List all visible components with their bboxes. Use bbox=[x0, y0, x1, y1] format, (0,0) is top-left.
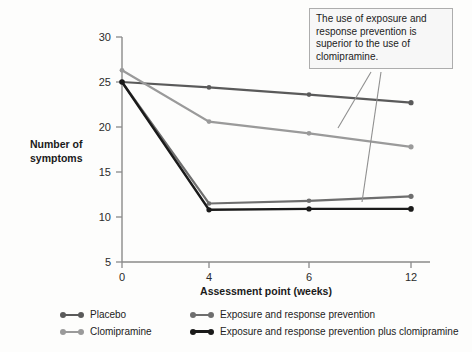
x-axis-title: Assessment point (weeks) bbox=[200, 285, 332, 297]
legend-item-clomipramine[interactable]: Clomipramine bbox=[60, 326, 190, 337]
y-axis-title-line2: symptoms bbox=[30, 152, 83, 164]
legend-row-2: Clomipramine Exposure and response preve… bbox=[60, 326, 458, 337]
legend-item-erp-plus-clomipramine[interactable]: Exposure and response prevention plus cl… bbox=[190, 326, 458, 337]
chart-figure: 30 25 20 15 10 5 0 4 6 12 Assessment poi… bbox=[0, 0, 472, 352]
series-clomipramine bbox=[120, 68, 414, 149]
legend-row-1: Placebo Exposure and response prevention bbox=[60, 309, 375, 320]
x-axis-ticks bbox=[122, 262, 411, 268]
legend-label-clomipramine: Clomipramine bbox=[90, 326, 152, 337]
legend-label-erp-plus-clomipramine: Exposure and response prevention plus cl… bbox=[220, 326, 458, 337]
legend-item-placebo[interactable]: Placebo bbox=[60, 309, 190, 320]
legend-swatch-exposure-response-prevention bbox=[190, 310, 214, 319]
y-tick-label-30: 30 bbox=[99, 31, 111, 43]
legend-item-exposure-response-prevention[interactable]: Exposure and response prevention bbox=[190, 309, 375, 320]
y-tick-label-10: 10 bbox=[99, 211, 111, 223]
legend-swatch-placebo bbox=[60, 310, 84, 319]
y-tick-label-25: 25 bbox=[99, 76, 111, 88]
callout-line-2: response prevention is bbox=[316, 26, 446, 39]
series-exposure-response-prevention bbox=[122, 82, 414, 206]
x-tick-label-0: 0 bbox=[119, 271, 125, 283]
legend-swatch-erp-plus-clomipramine bbox=[190, 327, 214, 336]
callout-line-4: clomipramine. bbox=[316, 51, 446, 64]
legend-label-exposure-response-prevention: Exposure and response prevention bbox=[220, 309, 375, 320]
y-tick-label-20: 20 bbox=[99, 121, 111, 133]
callout-annotation: The use of exposure and response prevent… bbox=[309, 8, 453, 69]
series-placebo bbox=[120, 80, 414, 106]
legend-label-placebo: Placebo bbox=[90, 309, 126, 320]
y-tick-label-5: 5 bbox=[105, 256, 111, 268]
legend-swatch-clomipramine bbox=[60, 327, 84, 336]
callout-line-3: superior to the use of bbox=[316, 38, 446, 51]
x-tick-label-6: 6 bbox=[306, 271, 312, 283]
callout-line-1: The use of exposure and bbox=[316, 13, 446, 26]
y-axis-title-line1: Number of bbox=[30, 138, 83, 150]
y-tick-label-15: 15 bbox=[99, 166, 111, 178]
x-tick-label-12: 12 bbox=[405, 271, 417, 283]
x-tick-label-4: 4 bbox=[206, 271, 212, 283]
